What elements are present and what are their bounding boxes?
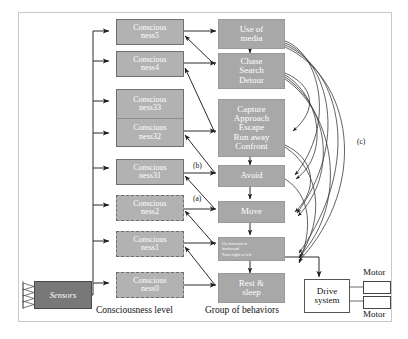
behavior-box-chase[interactable]: Chase Search Detour — [218, 53, 285, 89]
behavior-box-locomotion[interactable]: Go forward or backward Turn right or lef… — [218, 237, 285, 261]
behavior-box-avoid[interactable]: Avoid — [218, 165, 285, 187]
consciousness-31-line2: ness31 — [139, 172, 161, 180]
connector-layer — [19, 13, 391, 321]
sensors-box[interactable]: Sensors — [34, 281, 92, 309]
motor-top-label: Motor — [363, 267, 386, 277]
column-label-consciousness-level: Consciousness level — [96, 305, 173, 315]
consciousness-box-32[interactable]: Conscious ness32 — [116, 118, 184, 147]
consciousness-33-line2: ness33 — [139, 104, 161, 112]
behavior-move-label: Move — [241, 207, 262, 216]
behavior-box-rest-sleep[interactable]: Rest & sleep — [218, 273, 285, 303]
behavior-locomotion-line3: Turn right or left — [222, 252, 251, 257]
behavior-media-line2: media — [241, 34, 263, 43]
sensors-label: Sensors — [50, 291, 76, 300]
annotation-b: (b) — [193, 161, 202, 170]
consciousness-1-line2: ness1 — [141, 244, 159, 252]
behavior-box-use-of-media[interactable]: Use of media — [218, 19, 285, 49]
consciousness-box-5[interactable]: Conscious ness5 — [116, 19, 184, 45]
drive-system-box[interactable]: Drive system — [304, 279, 350, 313]
sensor-input-arrows — [21, 279, 37, 311]
column-label-group-of-behaviors: Group of behaviors — [205, 305, 279, 315]
diagram-frame: Conscious ness5 Conscious ness4 Consciou… — [18, 12, 392, 322]
behavior-rest-line2: sleep — [242, 288, 261, 297]
behavior-box-move[interactable]: Move — [218, 201, 285, 223]
consciousness-box-1[interactable]: Conscious ness1 — [116, 231, 184, 257]
motor-bottom[interactable] — [363, 296, 391, 309]
motor-bottom-label: Motor — [363, 309, 386, 319]
drive-system-line2: system — [314, 296, 339, 305]
diagram-canvas: Conscious ness5 Conscious ness4 Consciou… — [0, 0, 408, 339]
annotation-c: (c) — [357, 137, 365, 146]
consciousness-box-0[interactable]: Conscious ness0 — [116, 272, 184, 298]
consciousness-box-31[interactable]: Conscious ness31 — [116, 159, 184, 185]
consciousness-2-line2: ness2 — [141, 208, 159, 216]
annotation-a: (a) — [193, 194, 201, 203]
behavior-avoid-label: Avoid — [241, 171, 263, 180]
consciousness-5-line2: ness5 — [141, 32, 159, 40]
motor-top[interactable] — [363, 281, 391, 294]
consciousness-0-line2: ness0 — [141, 285, 159, 293]
consciousness-32-line2: ness32 — [139, 133, 161, 141]
consciousness-box-2[interactable]: Conscious ness2 — [116, 195, 184, 221]
behavior-box-capture[interactable]: Capture Approach Escape Run away Confron… — [218, 99, 285, 157]
consciousness-4-line2: ness4 — [141, 64, 159, 72]
behavior-chase-line3: Detour — [239, 76, 264, 85]
consciousness-box-4[interactable]: Conscious ness4 — [116, 51, 184, 77]
behavior-capture-line5: Confront — [235, 142, 268, 151]
consciousness-box-33[interactable]: Conscious ness33 — [116, 89, 184, 118]
